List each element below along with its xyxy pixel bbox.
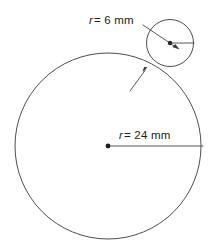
leader-line-small-radius — [143, 25, 177, 48]
large-circle-radius-label: r= 24 mm — [119, 129, 171, 142]
figure-canvas — [0, 0, 209, 249]
large-circle-radius-value: = 24 mm — [124, 129, 170, 141]
small-circle-radius-value: = 6 mm — [94, 14, 134, 26]
arrow-head-icon — [172, 44, 179, 50]
leader-line-tangent-point — [130, 70, 146, 91]
small-circle-radius-label: r= 6 mm — [89, 14, 134, 27]
geometry-figure: r= 6 mm r= 24 mm — [0, 0, 209, 249]
center-point-dot-icon — [106, 144, 111, 149]
arrow-head-icon — [143, 67, 148, 72]
